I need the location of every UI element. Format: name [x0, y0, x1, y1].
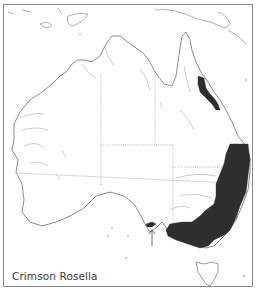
distribution-map: [0, 0, 257, 292]
arrow-icon: [149, 230, 155, 246]
northern-islands: [8, 8, 246, 44]
species-name: Crimson Rosella: [12, 270, 98, 282]
tasmania: [196, 262, 218, 286]
